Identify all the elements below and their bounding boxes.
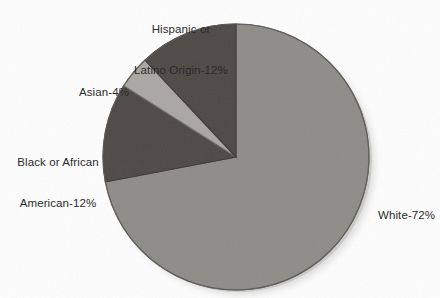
slice-label-white-text: White-72% <box>378 209 440 223</box>
slice-label-asian: Asian-4% <box>59 59 129 127</box>
slice-label-white: White-72% <box>378 182 440 250</box>
slice-label-black-line2: American-12% <box>2 197 114 211</box>
slice-label-hispanic-line2: Latino Origin-12% <box>122 64 240 78</box>
slice-label-asian-text: Asian-4% <box>59 86 129 100</box>
pie-chart-container: Hispanic or Latino Origin-12% Asian-4% B… <box>0 0 440 298</box>
slice-label-black-line1: Black or African <box>2 156 114 170</box>
slice-label-hispanic-line1: Hispanic or <box>122 23 240 37</box>
slice-label-black-or-african-american: Black or African American-12% <box>2 129 114 237</box>
slice-label-hispanic-or-latino-origin: Hispanic or Latino Origin-12% <box>122 0 240 104</box>
